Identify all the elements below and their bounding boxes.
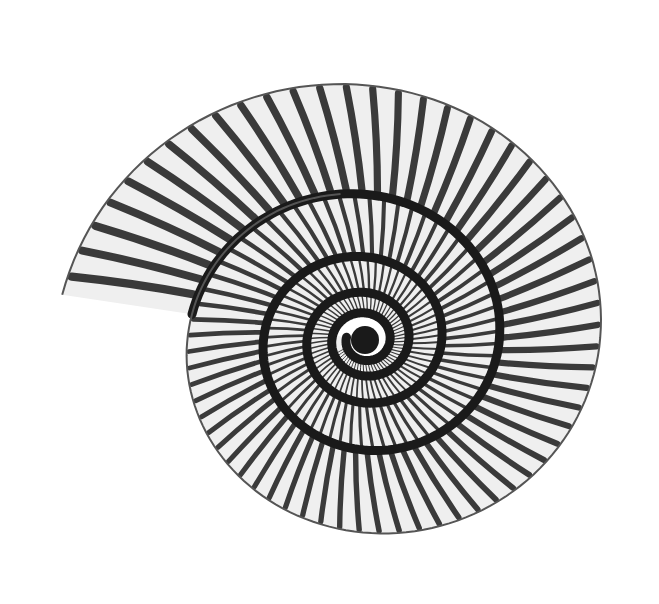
ammonite-illustration	[0, 0, 659, 604]
rib	[410, 342, 441, 343]
ammonite-shell	[62, 84, 601, 533]
umbilicus	[351, 326, 379, 354]
